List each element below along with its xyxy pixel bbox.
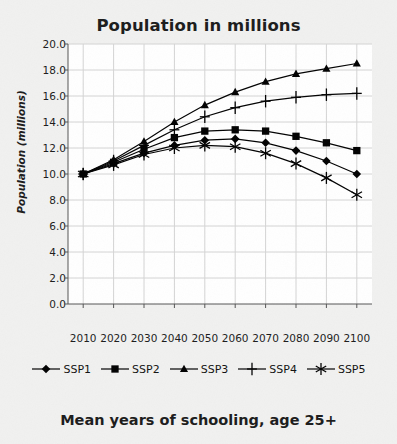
- legend-item-ssp5[interactable]: SSP5: [306, 361, 366, 377]
- legend-label: SSP5: [338, 363, 366, 376]
- series-canvas: [0, 38, 397, 326]
- diamond-marker-icon: [31, 361, 61, 377]
- legend-item-ssp4[interactable]: SSP4: [237, 361, 297, 377]
- plus-marker-icon: [237, 361, 267, 377]
- legend-item-ssp1[interactable]: SSP1: [31, 361, 91, 377]
- chart-legend: SSP1SSP2SSP3SSP4SSP5: [0, 357, 397, 381]
- legend-label: SSP2: [132, 363, 160, 376]
- x-tick-label: 2100: [334, 332, 380, 344]
- legend-label: SSP1: [63, 363, 91, 376]
- legend-label: SSP4: [269, 363, 297, 376]
- triangle-marker-icon: [169, 361, 199, 377]
- figure-panel: Population in millions Population (milli…: [0, 0, 397, 444]
- legend-item-ssp3[interactable]: SSP3: [169, 361, 229, 377]
- chart-title: Population in millions: [0, 16, 397, 35]
- plot-area: Population (millions) 0.02.04.06.08.010.…: [0, 38, 397, 326]
- legend-item-ssp2[interactable]: SSP2: [100, 361, 160, 377]
- figure-caption: Mean years of schooling, age 25+: [0, 412, 397, 428]
- asterisk-marker-icon: [306, 361, 336, 377]
- legend-label: SSP3: [201, 363, 229, 376]
- square-marker-icon: [100, 361, 130, 377]
